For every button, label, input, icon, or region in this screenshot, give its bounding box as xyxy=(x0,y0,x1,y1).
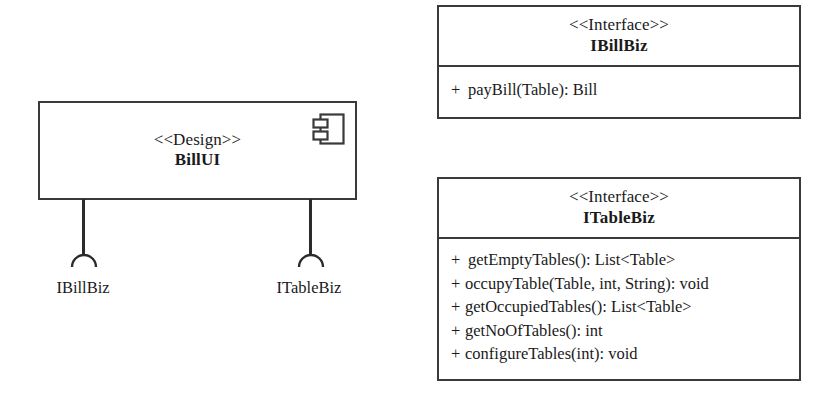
interface-stereotype-itablebiz: <<Interface>> xyxy=(445,187,793,208)
interface-name-ibillbiz: IBillBiz xyxy=(445,36,793,57)
interface-name-itablebiz: ITableBiz xyxy=(445,208,793,229)
member-row: +getOccupiedTables(): List<Table> xyxy=(451,295,799,318)
uml-component-icon xyxy=(312,112,346,146)
member-signature: getOccupiedTables(): List<Table> xyxy=(465,297,692,316)
member-signature: getEmptyTables(): List<Table> xyxy=(468,250,675,269)
member-signature: occupyTable(Table, int, String): void xyxy=(465,274,709,293)
member-visibility: + xyxy=(451,272,465,295)
member-signature: getNoOfTables(): int xyxy=(465,321,603,340)
required-interface-socket-icon-itablebiz xyxy=(297,252,325,268)
component-label-group: <<Design>> BillUI xyxy=(40,130,355,171)
interface-box-itablebiz[interactable]: <<Interface>> ITableBiz +getEmptyTables(… xyxy=(437,177,801,381)
interface-label-itablebiz: ITableBiz xyxy=(228,278,390,298)
member-row: +payBill(Table): Bill xyxy=(451,78,799,101)
interface-header-ibillbiz: <<Interface>> IBillBiz xyxy=(439,7,799,65)
member-visibility: + xyxy=(451,78,468,101)
member-row: +occupyTable(Table, int, String): void xyxy=(451,272,799,295)
member-row: +getNoOfTables(): int xyxy=(451,319,799,342)
member-row: +getEmptyTables(): List<Table> xyxy=(451,248,799,271)
interface-box-ibillbiz[interactable]: <<Interface>> IBillBiz +payBill(Table): … xyxy=(437,5,801,119)
component-billui[interactable]: <<Design>> BillUI xyxy=(38,101,357,200)
member-signature: payBill(Table): Bill xyxy=(468,80,597,99)
interface-header-itablebiz: <<Interface>> ITableBiz xyxy=(439,179,799,237)
member-visibility: + xyxy=(451,319,465,342)
required-interface-socket-icon-ibillbiz xyxy=(70,252,98,268)
member-visibility: + xyxy=(451,248,468,271)
interface-stereotype-ibillbiz: <<Interface>> xyxy=(445,15,793,36)
member-visibility: + xyxy=(451,342,465,365)
uml-component-diagram-canvas: <<Design>> BillUI IBillBiz ITableBiz <<I… xyxy=(0,0,836,410)
member-list-ibillbiz: +payBill(Table): Bill xyxy=(439,67,799,109)
connector-line-ibillbiz xyxy=(82,199,85,256)
member-list-itablebiz: +getEmptyTables(): List<Table> +occupyTa… xyxy=(439,239,799,373)
member-signature: configureTables(int): void xyxy=(465,344,638,363)
member-row: +configureTables(int): void xyxy=(451,342,799,365)
component-stereotype: <<Design>> xyxy=(40,130,355,151)
member-visibility: + xyxy=(451,295,465,318)
connector-line-itablebiz xyxy=(309,199,312,256)
interface-label-ibillbiz: IBillBiz xyxy=(2,278,164,298)
component-name: BillUI xyxy=(40,151,355,172)
